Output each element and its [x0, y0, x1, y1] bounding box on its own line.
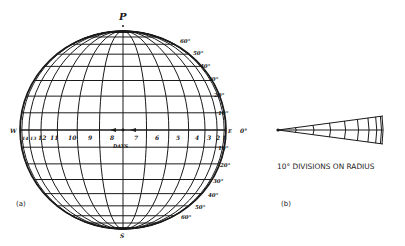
day-label: 5 [176, 134, 180, 141]
day-label: 1 [222, 134, 226, 141]
latitude-label-north: 20° [213, 92, 225, 98]
latitude-label-north: 40° [200, 63, 211, 69]
rotation-arrows [110, 128, 136, 132]
west-label: W [10, 127, 18, 134]
day-label: 14 [22, 136, 28, 141]
day-label: 8 [110, 134, 115, 141]
latitude-label-south: 30° [213, 178, 224, 184]
latitude-label-south: 50° [195, 204, 206, 210]
panel-b-label: (b) [281, 200, 291, 208]
day-label: 6 [155, 134, 160, 141]
day-label: 12 [38, 134, 46, 141]
latitude-label-north: 10° [218, 110, 229, 116]
north-pole-label: P [118, 11, 127, 22]
fan-apex-dot [276, 128, 279, 131]
day-label: 2 [215, 134, 220, 141]
day-label: 11 [50, 134, 58, 141]
latitude-label-south: 20° [219, 162, 231, 168]
day-labels: 1413121110987654321 [22, 134, 226, 141]
days-axis-label: DAYS [112, 143, 129, 149]
equator-degree-label: 0° [240, 127, 247, 134]
fan-caption: 10° DIVISIONS ON RADIUS [277, 162, 375, 171]
latitude-label-north: 60° [180, 38, 191, 44]
latitude-label-north: 50° [193, 50, 204, 56]
north-pole-dot [122, 25, 124, 27]
day-label: 9 [88, 134, 93, 141]
radius-division-fan [278, 116, 383, 144]
east-label: E [227, 128, 232, 134]
latitude-label-south: 10° [218, 145, 229, 151]
day-label: 4 [195, 134, 199, 141]
day-label: 3 [207, 134, 211, 141]
day-label: 7 [134, 134, 139, 141]
day-label: 13 [30, 136, 36, 141]
latitude-label-south: 40° [208, 192, 219, 198]
day-label: 10 [68, 134, 77, 141]
south-pole-label: S [120, 232, 125, 239]
latitude-label-north: 30° [208, 76, 219, 82]
panel-a-label: (a) [16, 200, 26, 208]
solar-grid-figure: P S W E 0° DAYS 1413121110987654321 60°5… [0, 0, 405, 246]
latitude-label-south: 60° [181, 214, 192, 220]
